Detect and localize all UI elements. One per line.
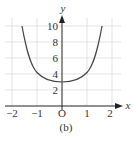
x-tick-origin: O — [58, 107, 66, 119]
x-tick-neg2: −2 — [6, 107, 18, 119]
x-tick-2: 2 — [107, 107, 113, 119]
y-tick-4: 4 — [53, 68, 59, 80]
y-tick-8: 8 — [53, 36, 59, 48]
y-axis-label: y — [60, 2, 66, 14]
y-tick-6: 6 — [53, 52, 59, 64]
y-tick-10: 10 — [47, 20, 59, 32]
x-axis-arrow-icon — [115, 103, 123, 109]
x-tick-neg1: −1 — [31, 107, 43, 119]
y-axis-arrow-icon — [59, 15, 65, 23]
chart-canvas: 10 8 6 4 2 −2 −1 O 1 2 x y (b) — [0, 0, 134, 143]
x-tick-1: 1 — [84, 107, 90, 119]
x-axis-label: x — [125, 99, 131, 111]
y-tick-2: 2 — [53, 84, 59, 96]
figure-caption: (b) — [60, 121, 73, 134]
axes — [5, 22, 118, 110]
